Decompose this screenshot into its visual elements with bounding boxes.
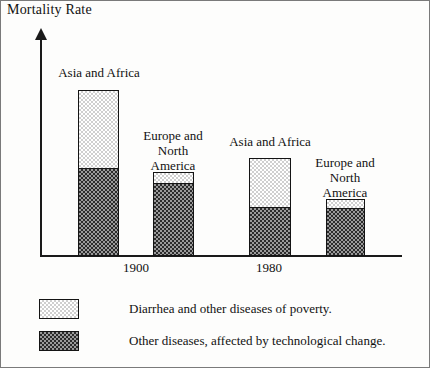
legend-swatch-technological (39, 331, 79, 351)
bar-label-1900-asia-africa: Asia and Africa (33, 65, 165, 80)
legend-swatch-poverty (39, 299, 79, 319)
x-tick-label-1980: 1980 (229, 260, 309, 276)
bar-segment-poverty (250, 159, 290, 209)
x-tick-label-1900: 1900 (96, 260, 176, 276)
bar-label-1980-asia-africa: Asia and Africa (204, 134, 336, 149)
chart-figure: Mortality Rate Asia and Africa Europe an… (0, 0, 430, 368)
legend-item-technological: Other diseases, affected by technologica… (39, 325, 409, 357)
bar-1900-europe-north-america (153, 172, 194, 256)
bar-segment-poverty (79, 91, 118, 170)
legend-label-technological: Other diseases, affected by technologica… (129, 333, 385, 349)
legend-item-poverty: Diarrhea and other diseases of poverty. (39, 293, 409, 325)
chart-legend: Diarrhea and other diseases of poverty. … (39, 293, 409, 357)
bar-1980-asia-africa (249, 158, 291, 256)
bar-segment-technological (79, 168, 118, 255)
bar-segment-technological (250, 207, 290, 255)
legend-label-poverty: Diarrhea and other diseases of poverty. (129, 301, 332, 317)
bar-1980-europe-north-america (326, 199, 365, 256)
bar-segment-technological (327, 208, 364, 255)
bar-1900-asia-africa (78, 90, 119, 256)
bar-label-1980-europe-north-america: Europe and North America (301, 155, 389, 200)
y-axis-title: Mortality Rate (7, 2, 92, 18)
bar-segment-technological (154, 183, 193, 255)
